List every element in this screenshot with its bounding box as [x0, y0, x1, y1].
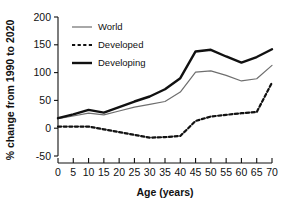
x-tick-label: 35	[159, 166, 171, 178]
x-tick-label: 45	[190, 166, 202, 178]
x-tick-label: 65	[251, 166, 263, 178]
legend-label-world: World	[98, 21, 123, 32]
y-tick-label: -50	[36, 150, 51, 162]
legend-label-developing: Developing	[98, 57, 146, 68]
y-tick-label: 0	[45, 122, 51, 134]
x-tick-label: 60	[236, 166, 248, 178]
y-tick-label: 50	[39, 94, 51, 106]
x-tick-label: 50	[205, 166, 217, 178]
x-tick-label: 40	[174, 166, 186, 178]
x-tick-label: 5	[70, 166, 76, 178]
y-axis-title: % change from 1990 to 2020	[4, 20, 16, 161]
x-tick-label: 30	[144, 166, 156, 178]
chart-figure: -50050100150200 051015202530354045505560…	[0, 0, 288, 205]
x-axis-tick-labels: 0510152025303540455055606570	[55, 166, 278, 178]
x-tick-label: 20	[113, 166, 125, 178]
x-tick-label: 0	[55, 166, 61, 178]
y-tick-label: 200	[33, 11, 51, 23]
line-chart: -50050100150200 051015202530354045505560…	[0, 0, 288, 205]
x-tick-label: 55	[220, 166, 232, 178]
y-tick-label: 100	[33, 66, 51, 78]
x-tick-label: 15	[98, 166, 110, 178]
x-tick-label: 70	[266, 166, 278, 178]
legend-label-developed: Developed	[98, 39, 143, 50]
x-axis-title: Age (years)	[136, 186, 193, 198]
x-tick-label: 25	[129, 166, 141, 178]
y-tick-label: 150	[33, 38, 51, 50]
x-tick-label: 10	[83, 166, 95, 178]
